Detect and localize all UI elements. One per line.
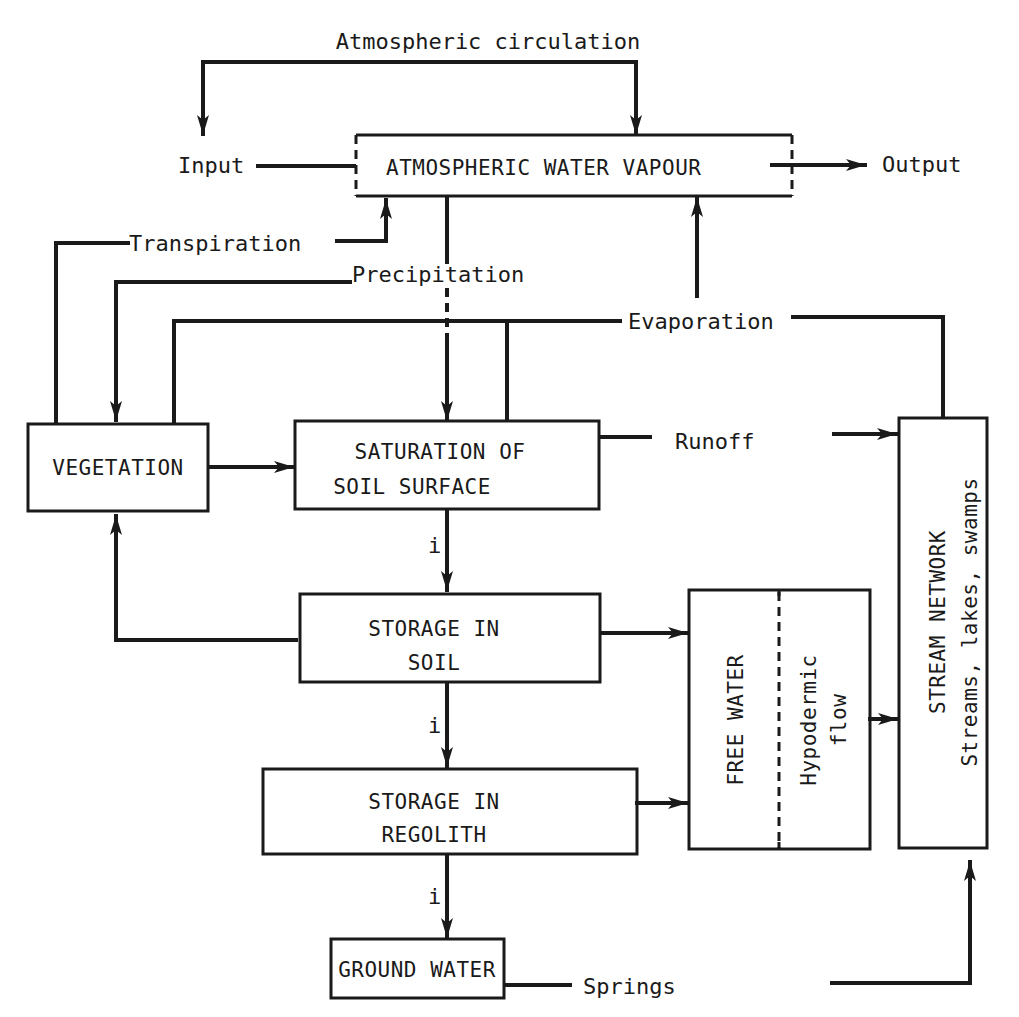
- evaporation-label: Evaporation: [628, 309, 774, 334]
- atmosphere-label: ATMOSPHERIC WATER VAPOUR: [386, 156, 701, 180]
- transpiration-flow: Transpiration: [56, 200, 386, 424]
- node-storage-in-soil: STORAGE IN SOIL: [300, 594, 600, 682]
- precipitation-label: Precipitation: [352, 262, 524, 287]
- stream-network-label-line1: STREAM NETWORK: [926, 530, 950, 714]
- node-vegetation: VEGETATION: [28, 424, 208, 511]
- springs-label: Springs: [583, 974, 676, 999]
- runoff-label: Runoff: [675, 429, 754, 454]
- node-free-water: FREE WATER Hypodermic flow: [689, 590, 870, 849]
- node-stream-network: STREAM NETWORK Streams, lakes, swamps: [899, 418, 987, 848]
- vegetation-label: VEGETATION: [52, 456, 183, 480]
- node-ground-water: GROUND WATER: [331, 939, 504, 998]
- infiltration-label-1: i: [428, 533, 441, 558]
- runoff-flow: Runoff: [600, 429, 896, 454]
- soil-label-line2: SOIL: [408, 651, 461, 675]
- stream-network-label-line2: Streams, lakes, swamps: [958, 477, 982, 766]
- free-water-label: FREE WATER: [724, 654, 748, 785]
- springs-flow: Springs: [505, 862, 970, 999]
- node-atmospheric-water-vapour: ATMOSPHERIC WATER VAPOUR: [356, 135, 792, 196]
- circulation-line: [203, 62, 636, 134]
- hydrological-cycle-diagram: Atmospheric circulation Input ATMOSPHERI…: [0, 0, 1019, 1017]
- atmospheric-circulation-loop: Atmospheric circulation: [203, 26, 640, 134]
- regolith-label-line1: STORAGE IN: [368, 790, 499, 814]
- hypodermic-label-line2: flow: [827, 694, 851, 747]
- hypodermic-label-line1: Hypodermic: [797, 654, 821, 785]
- soil-label-line1: STORAGE IN: [368, 617, 499, 641]
- transpiration-label: Transpiration: [129, 231, 301, 256]
- node-storage-in-regolith: STORAGE IN REGOLITH: [263, 769, 637, 854]
- node-saturation-soil-surface: SATURATION OF SOIL SURFACE: [295, 421, 599, 509]
- groundwater-label: GROUND WATER: [338, 958, 496, 982]
- regolith-label-line2: REGOLITH: [381, 823, 486, 847]
- soil-to-vegetation-arrow: [116, 516, 296, 640]
- infiltration-label-2: i: [428, 713, 441, 738]
- input-label: Input: [178, 153, 244, 178]
- saturation-label-line2: SOIL SURFACE: [333, 475, 491, 499]
- infiltration-label-3: i: [428, 884, 441, 909]
- output-label: Output: [882, 152, 961, 177]
- atmospheric-circulation-label: Atmospheric circulation: [336, 29, 641, 54]
- saturation-label-line1: SATURATION OF: [355, 440, 526, 464]
